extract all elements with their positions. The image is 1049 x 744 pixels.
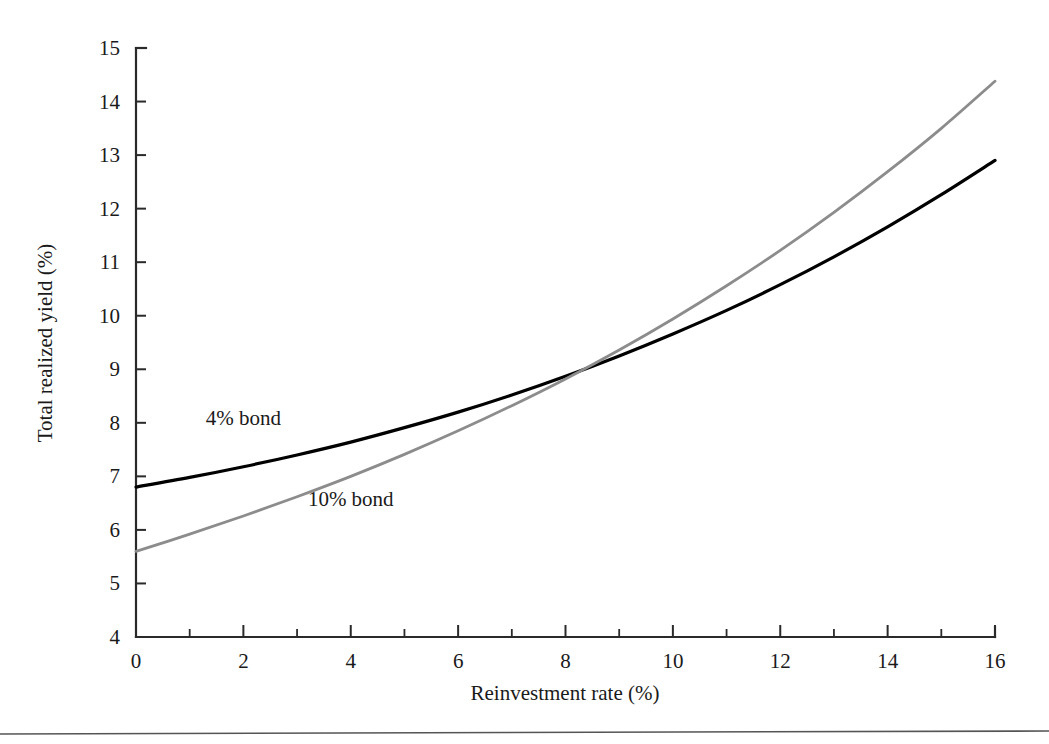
x-tick-label-16: 16 bbox=[985, 649, 1006, 673]
x-tick-label-2: 2 bbox=[238, 649, 249, 673]
y-tick-label-11: 11 bbox=[100, 250, 120, 274]
y-tick-label-13: 13 bbox=[99, 143, 120, 167]
y-tick-label-9: 9 bbox=[110, 357, 121, 381]
y-tick-label-14: 14 bbox=[99, 90, 121, 114]
y-tick-label-6: 6 bbox=[110, 518, 121, 542]
x-axis-title: Reinvestment rate (%) bbox=[471, 681, 660, 705]
x-tick-label-8: 8 bbox=[560, 649, 571, 673]
chart-figure: 456789101112131415 0246810121416 4% bond… bbox=[0, 0, 1049, 744]
y-tick-label-12: 12 bbox=[99, 197, 120, 221]
x-tick-label-10: 10 bbox=[662, 649, 683, 673]
y-tick-label-8: 8 bbox=[110, 411, 121, 435]
y-tick-label-5: 5 bbox=[110, 571, 121, 595]
x-tick-label-0: 0 bbox=[131, 649, 142, 673]
chart-svg: 456789101112131415 0246810121416 4% bond… bbox=[0, 0, 1049, 744]
y-tick-label-7: 7 bbox=[110, 464, 121, 488]
x-tick-label-12: 12 bbox=[770, 649, 791, 673]
series-label-4-bond: 4% bond bbox=[206, 406, 282, 430]
x-tick-label-4: 4 bbox=[346, 649, 357, 673]
series-label-10-bond: 10% bond bbox=[308, 487, 394, 511]
y-axis-title: Total realized yield (%) bbox=[33, 244, 57, 443]
chart-background bbox=[0, 0, 1049, 744]
y-tick-label-15: 15 bbox=[99, 36, 120, 60]
x-tick-label-14: 14 bbox=[877, 649, 899, 673]
y-tick-label-10: 10 bbox=[99, 304, 120, 328]
x-tick-label-6: 6 bbox=[453, 649, 464, 673]
y-tick-label-4: 4 bbox=[110, 625, 121, 649]
